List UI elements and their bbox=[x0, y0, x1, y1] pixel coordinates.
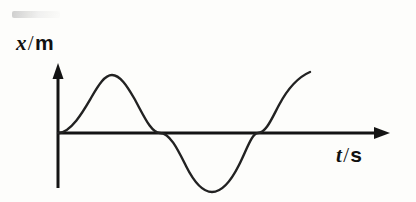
y-axis-label-unit: m bbox=[35, 31, 54, 54]
x-axis-label-unit: s bbox=[350, 143, 362, 166]
y-axis-label: x/m bbox=[16, 32, 54, 54]
y-axis-label-variable: x bbox=[16, 31, 27, 55]
figure-root: x/m t/s bbox=[0, 0, 416, 202]
graph-canvas bbox=[0, 0, 416, 202]
y-axis-arrowhead bbox=[53, 63, 64, 79]
x-axis-label: t/s bbox=[336, 144, 362, 166]
y-axis-label-separator: / bbox=[27, 31, 35, 55]
x-axis-arrowhead bbox=[374, 127, 390, 139]
